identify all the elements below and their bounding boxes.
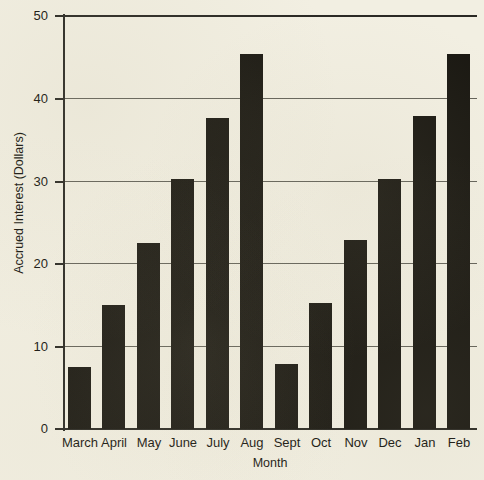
y-tick-label-0: 0 xyxy=(22,422,48,435)
bar-nov xyxy=(344,240,367,429)
bar-june xyxy=(171,179,194,429)
x-tick-label-april: April xyxy=(101,436,127,449)
x-tick-label-feb: Feb xyxy=(448,436,470,449)
bar-march xyxy=(68,367,91,429)
x-tick-label-march: March xyxy=(62,436,98,449)
bar-july xyxy=(206,118,229,429)
x-tick-label-nov: Nov xyxy=(344,436,367,449)
bar-april xyxy=(102,305,125,429)
bar-jan xyxy=(413,116,436,429)
y-tick-mark-30 xyxy=(55,181,64,183)
y-axis-title: Accrued Interest (Dollars) xyxy=(12,88,26,318)
x-axis-tick-labels: March April May June July Aug Sept Oct N… xyxy=(63,436,477,456)
bar-oct xyxy=(309,303,332,429)
y-tick-label-50: 50 xyxy=(22,9,48,22)
x-tick-label-june: June xyxy=(169,436,197,449)
x-tick-label-dec: Dec xyxy=(378,436,401,449)
bar-sept xyxy=(275,364,298,429)
y-tick-mark-20 xyxy=(55,263,64,265)
gridline-40 xyxy=(63,98,477,99)
x-tick-label-oct: Oct xyxy=(311,436,331,449)
y-tick-mark-10 xyxy=(55,346,64,348)
bar-aug xyxy=(240,54,263,429)
x-tick-label-july: July xyxy=(206,436,229,449)
x-tick-label-sept: Sept xyxy=(274,436,301,449)
bar-may xyxy=(137,243,160,429)
bar-chart-figure: 50 40 30 20 10 0 Accrued Interest (Dolla… xyxy=(0,0,484,480)
x-tick-label-aug: Aug xyxy=(240,436,263,449)
y-tick-mark-40 xyxy=(55,98,64,100)
y-tick-mark-50 xyxy=(55,15,64,17)
plot-area xyxy=(63,15,477,429)
y-tick-label-10: 10 xyxy=(22,340,48,353)
x-tick-label-may: May xyxy=(137,436,162,449)
x-tick-label-jan: Jan xyxy=(415,436,436,449)
y-axis-spine xyxy=(63,14,65,431)
y-tick-mark-0 xyxy=(55,428,64,430)
gridline-50 xyxy=(63,15,477,17)
x-axis-title: Month xyxy=(63,456,477,470)
bar-dec xyxy=(378,179,401,429)
bar-feb xyxy=(447,54,470,429)
